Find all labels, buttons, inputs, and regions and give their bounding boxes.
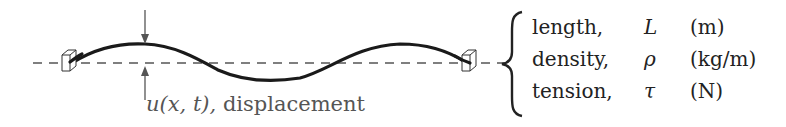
displacement-label: u(x, t), displacement (146, 92, 365, 116)
displacement-symbol: u(x, t), (146, 92, 216, 116)
parameter-symbol: τ (644, 79, 655, 103)
parameter-unit: (m) (690, 15, 725, 39)
parameter-unit: (kg/m) (690, 47, 756, 71)
displacement-arrow-down-icon (141, 10, 149, 44)
parameter-name: tension, (532, 79, 613, 103)
parameter-name: length, (532, 15, 603, 39)
displacement-word: displacement (223, 92, 365, 116)
curly-brace-icon (502, 12, 522, 116)
vibrating-string-diagram (0, 0, 786, 127)
parameter-name: density, (532, 47, 609, 71)
string-curve (72, 44, 465, 81)
parameter-unit: (N) (690, 79, 723, 103)
parameter-symbol: L (644, 15, 657, 39)
parameter-symbol: ρ (644, 47, 656, 71)
